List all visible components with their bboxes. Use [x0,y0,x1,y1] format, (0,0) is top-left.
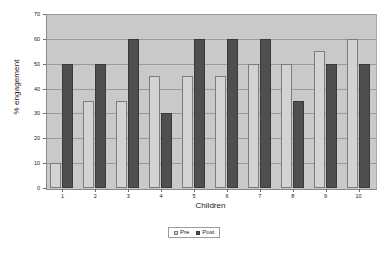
legend-label: Post [202,229,214,236]
y-tick-label: 0 [14,185,40,191]
bar-post-6 [227,39,238,188]
legend-swatch-icon [196,231,200,235]
x-tick-label: 9 [316,193,336,200]
x-tick-mark [326,189,327,192]
bar-group [178,14,211,188]
bar-pre-4 [149,76,160,188]
bar-post-2 [95,64,106,188]
y-tick-label: 40 [14,86,40,92]
x-axis-title: Children [46,201,375,210]
bar-pre-1 [50,163,61,188]
legend-swatch-icon [174,231,178,235]
bar-pre-3 [116,101,127,188]
x-tick-label: 8 [283,193,303,200]
x-tick-label: 6 [217,193,237,200]
bar-post-8 [293,101,304,188]
x-tick-label: 10 [349,193,369,200]
bar-post-5 [194,39,205,188]
bar-pre-9 [314,51,325,188]
bar-group [112,14,145,188]
bar-group [342,14,375,188]
y-tick-label: 70 [14,11,40,17]
x-tick-mark [260,189,261,192]
x-tick-label: 1 [52,193,72,200]
y-tick-label: 30 [14,110,40,116]
x-tick-label: 7 [250,193,270,200]
y-tick-label: 20 [14,135,40,141]
x-tick-label: 5 [184,193,204,200]
x-tick-label: 2 [85,193,105,200]
bar-group [276,14,309,188]
bar-group [46,14,79,188]
bar-group [211,14,244,188]
bar-group [243,14,276,188]
bars-layer [46,14,375,188]
bar-group [309,14,342,188]
x-tick-mark [293,189,294,192]
y-tick-label: 10 [14,160,40,166]
bar-group [145,14,178,188]
bar-post-10 [359,64,370,188]
legend-entry-post[interactable]: Post [196,229,214,236]
bar-post-4 [161,113,172,188]
x-tick-label: 4 [151,193,171,200]
chart-legend: PrePost [168,227,220,238]
bar-pre-6 [215,76,226,188]
bar-pre-10 [347,39,358,188]
x-tick-mark [62,189,63,192]
bar-pre-7 [248,64,259,188]
x-tick-mark [227,189,228,192]
y-axis-ticks: 010203040506070 [0,0,46,256]
legend-label: Pre [180,229,189,236]
bar-post-9 [326,64,337,188]
bar-post-3 [128,39,139,188]
bar-post-1 [62,64,73,188]
y-tick-label: 50 [14,61,40,67]
bar-group [79,14,112,188]
y-tick-label: 60 [14,36,40,42]
bar-pre-2 [83,101,94,188]
x-tick-mark [359,189,360,192]
x-tick-label: 3 [118,193,138,200]
bar-chart: % engagement 010203040506070 12345678910… [0,0,387,256]
bar-post-7 [260,39,271,188]
x-tick-mark [95,189,96,192]
bar-pre-8 [281,64,292,188]
bar-pre-5 [182,76,193,188]
x-tick-mark [161,189,162,192]
legend-entry-pre[interactable]: Pre [174,229,189,236]
x-tick-mark [128,189,129,192]
x-tick-mark [194,189,195,192]
